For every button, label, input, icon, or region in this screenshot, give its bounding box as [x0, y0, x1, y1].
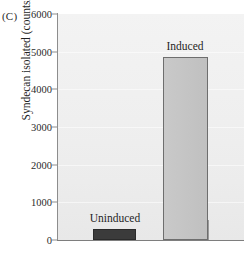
y-axis-tick-labels: 6000 5000 4000 3000 2000 1000 0: [14, 0, 52, 254]
plot-band-4000: [57, 89, 244, 90]
plot-band-3000: [57, 127, 244, 128]
bar-label-uninduced: Uninduced: [90, 212, 140, 224]
category-divider-2: [208, 220, 209, 240]
y-tick-label-3000: 3000: [31, 122, 52, 133]
tick-mark-1000: [52, 202, 57, 203]
tick-mark-4000: [52, 89, 57, 90]
bar-label-induced: Induced: [166, 40, 203, 52]
y-axis-tick-marks: [52, 0, 58, 254]
tick-mark-0: [52, 240, 57, 241]
bar-induced[interactable]: [163, 57, 208, 240]
plot-band-5000: [57, 52, 244, 53]
y-tick-label-5000: 5000: [31, 46, 52, 57]
tick-mark-6000: [52, 14, 57, 15]
y-tick-label-2000: 2000: [31, 159, 52, 170]
figure-panel-c: (C) Syndecan isolated (counts/min) Induc…: [0, 0, 244, 254]
y-tick-label-1000: 1000: [31, 197, 52, 208]
tick-mark-3000: [52, 127, 57, 128]
x-axis-line: [57, 240, 244, 241]
plot-area: Induced Uninduced: [57, 14, 244, 240]
tick-mark-5000: [52, 51, 57, 52]
plot-band-1000: [57, 202, 244, 203]
bar-uninduced[interactable]: [93, 229, 136, 240]
tick-mark-2000: [52, 164, 57, 165]
y-tick-label-4000: 4000: [31, 84, 52, 95]
y-tick-label-0: 0: [47, 235, 52, 246]
y-tick-label-6000: 6000: [31, 9, 52, 20]
plot-band-2000: [57, 165, 244, 166]
